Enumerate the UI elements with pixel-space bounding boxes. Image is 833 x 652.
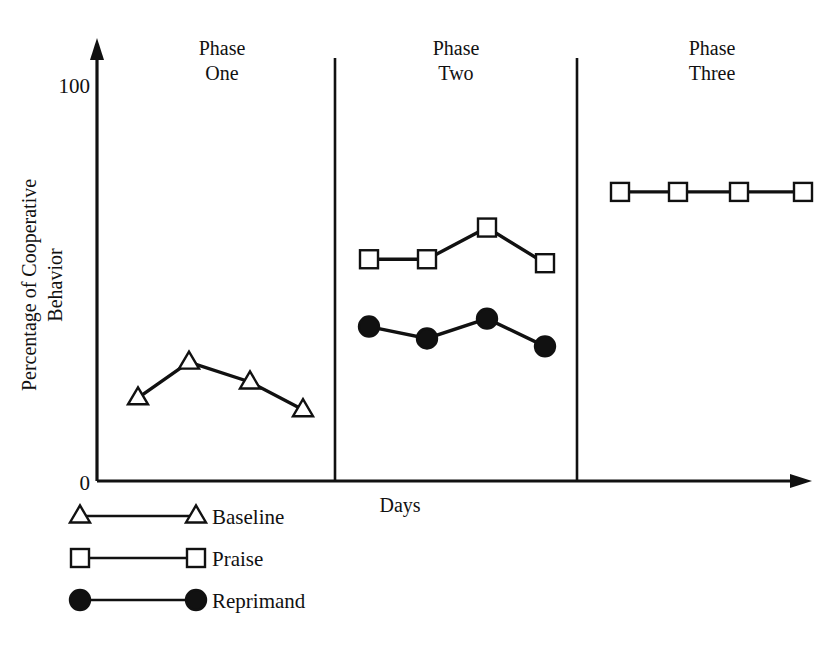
data-point-praise-4 — [536, 254, 554, 272]
y-tick-label-100: 100 — [59, 74, 91, 98]
y-axis-title: Percentage of Cooperative Behavior — [18, 179, 66, 391]
data-point-reprimand-4 — [535, 336, 555, 356]
phase-two-line-1: Phase — [433, 37, 480, 59]
series-praise — [360, 183, 812, 272]
legend-marker-praise — [71, 549, 89, 567]
data-point-reprimand-2 — [417, 328, 437, 348]
data-point-praise-4 — [794, 183, 812, 201]
chart-figure: 100 0 Percentage of Cooperative Behavior… — [0, 0, 833, 652]
series-reprimand — [359, 309, 555, 357]
y-axis-arrow-icon — [90, 38, 104, 60]
legend-label-praise: Praise — [212, 547, 263, 571]
data-point-baseline-1 — [128, 387, 148, 404]
data-point-baseline-2 — [179, 352, 199, 369]
legend-marker-end-baseline — [186, 505, 206, 522]
data-point-praise-3 — [478, 219, 496, 237]
phase-three-line-1: Phase — [689, 37, 736, 59]
legend-marker-baseline — [70, 505, 90, 522]
legend-marker-end-praise — [187, 549, 205, 567]
phase-heading-two: Phase Two — [433, 37, 480, 84]
data-series-layer — [128, 183, 812, 416]
y-tick-label-0: 0 — [80, 471, 91, 495]
series-line-praise — [369, 228, 545, 264]
legend-marker-reprimand — [70, 590, 90, 610]
phase-three-line-2: Three — [689, 62, 736, 84]
data-point-praise-2 — [418, 250, 436, 268]
y-axis-title-line-2: Behavior — [44, 248, 66, 322]
phase-headings: Phase One Phase Two Phase Three — [199, 37, 736, 84]
legend-label-reprimand: Reprimand — [212, 589, 306, 613]
series-baseline — [128, 352, 313, 417]
legend-item-baseline[interactable]: Baseline — [70, 505, 284, 529]
data-point-praise-1 — [611, 183, 629, 201]
data-point-reprimand-3 — [477, 309, 497, 329]
phase-two-line-2: Two — [438, 62, 473, 84]
line-chart: 100 0 Percentage of Cooperative Behavior… — [0, 0, 833, 652]
legend-marker-end-reprimand — [186, 590, 206, 610]
y-axis-title-line-1: Percentage of Cooperative — [18, 179, 41, 391]
x-axis-arrow-icon — [790, 474, 812, 488]
series-line-reprimand — [369, 319, 545, 347]
data-point-praise-1 — [360, 250, 378, 268]
phase-heading-one: Phase One — [199, 37, 246, 84]
x-axis-title: Days — [379, 494, 420, 517]
data-point-praise-3 — [730, 183, 748, 201]
legend-item-praise[interactable]: Praise — [71, 547, 263, 571]
phase-one-line-2: One — [205, 62, 238, 84]
phase-heading-three: Phase Three — [689, 37, 736, 84]
axes-group — [90, 38, 812, 488]
phase-one-line-1: Phase — [199, 37, 246, 59]
data-point-praise-2 — [669, 183, 687, 201]
legend-label-baseline: Baseline — [212, 505, 284, 529]
legend-item-reprimand[interactable]: Reprimand — [70, 589, 306, 613]
data-point-reprimand-1 — [359, 317, 379, 337]
series-line-baseline — [138, 362, 303, 410]
chart-legend: BaselinePraiseReprimand — [70, 505, 306, 613]
